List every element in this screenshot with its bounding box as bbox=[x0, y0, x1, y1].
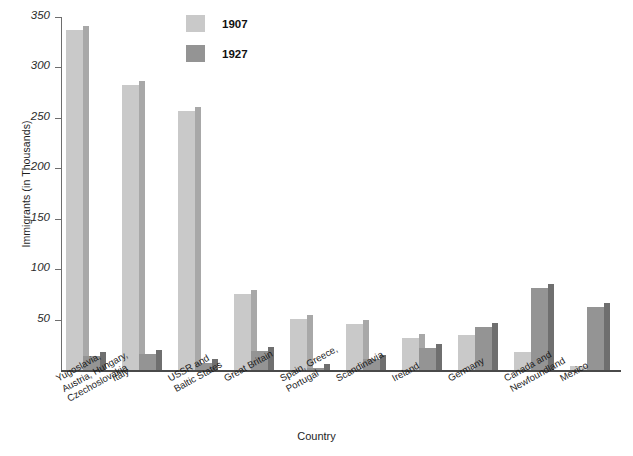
legend-label-1907: 1907 bbox=[222, 18, 248, 30]
bar-side bbox=[83, 30, 89, 370]
bar-side bbox=[436, 348, 442, 370]
x-axis-title: Country bbox=[0, 430, 633, 442]
bar-face bbox=[178, 111, 195, 370]
y-tick-label: 150 bbox=[10, 211, 50, 223]
bar-1927-6 bbox=[419, 348, 436, 370]
bar-top bbox=[548, 284, 554, 288]
bar-top bbox=[195, 107, 201, 111]
bar-1907-0 bbox=[66, 30, 83, 370]
immigration-bar-chart: Immigrants (in Thousands) 50100150200250… bbox=[0, 0, 633, 456]
legend-swatch-1927 bbox=[186, 45, 205, 62]
bar-group bbox=[66, 17, 122, 370]
bar-top bbox=[419, 334, 425, 338]
chart-legend: 1907 1927 bbox=[186, 15, 248, 75]
bar-group bbox=[570, 17, 626, 370]
bar-face bbox=[122, 85, 139, 370]
bar-group bbox=[402, 17, 458, 370]
bar-group bbox=[514, 17, 570, 370]
bar-face bbox=[66, 30, 83, 370]
bar-group bbox=[122, 17, 178, 370]
legend-item-1927: 1927 bbox=[186, 45, 248, 62]
bar-side bbox=[195, 111, 201, 370]
bar-face bbox=[419, 348, 436, 370]
bar-side bbox=[604, 307, 610, 370]
bar-group bbox=[346, 17, 402, 370]
bar-top bbox=[139, 81, 145, 85]
bar-top bbox=[363, 320, 369, 324]
bar-top bbox=[307, 315, 313, 319]
bar-top bbox=[251, 290, 257, 294]
bar-top bbox=[604, 303, 610, 307]
y-tick-label: 350 bbox=[10, 9, 50, 21]
bar-top bbox=[492, 323, 498, 327]
bar-top bbox=[156, 350, 162, 354]
y-tick-label: 50 bbox=[10, 312, 50, 324]
y-tick-label: 100 bbox=[10, 261, 50, 273]
legend-label-1927: 1927 bbox=[222, 48, 248, 60]
legend-item-1907: 1907 bbox=[186, 15, 248, 32]
y-tick-label: 300 bbox=[10, 59, 50, 71]
bar-1927-1 bbox=[139, 354, 156, 370]
bar-side bbox=[492, 327, 498, 370]
legend-swatch-1907 bbox=[186, 15, 205, 32]
bar-top bbox=[436, 344, 442, 348]
bar-top bbox=[83, 26, 89, 30]
bar-group bbox=[290, 17, 346, 370]
bar-side bbox=[156, 354, 162, 370]
y-tick-label: 200 bbox=[10, 160, 50, 172]
bar-side bbox=[139, 85, 145, 370]
bar-1907-1 bbox=[122, 85, 139, 370]
bar-face bbox=[139, 354, 156, 370]
plot-area bbox=[61, 17, 621, 370]
bar-face bbox=[587, 307, 604, 370]
bar-group bbox=[458, 17, 514, 370]
bar-1927-9 bbox=[587, 307, 604, 370]
y-tick-label: 250 bbox=[10, 110, 50, 122]
bar-1907-2 bbox=[178, 111, 195, 370]
